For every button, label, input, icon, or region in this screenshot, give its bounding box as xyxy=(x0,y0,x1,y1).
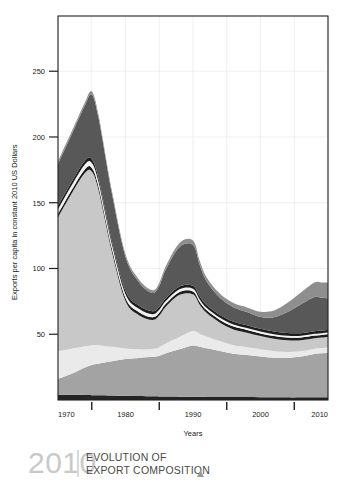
x-tick-label: 1980 xyxy=(117,410,134,419)
x-axis-title: Years xyxy=(184,429,203,438)
caption-line-1: EVOLUTION OF xyxy=(86,451,167,463)
y-tick-label: 250 xyxy=(32,67,45,76)
x-tick-label: 2000 xyxy=(252,410,269,419)
y-tick-label: 100 xyxy=(32,264,45,273)
y-tick-label: 200 xyxy=(32,133,45,142)
x-tick-label: 2010 xyxy=(311,410,328,419)
y-axis-title: Exports per capita in constant 2010 US D… xyxy=(10,144,19,300)
caption-line-2: EXPORT COMPOSITION xyxy=(86,464,210,476)
y-tick-label: 50 xyxy=(37,330,45,339)
plot-area xyxy=(58,16,328,400)
export-composition-figure: 50100150200250 Exports per capita in con… xyxy=(0,0,339,482)
x-tick-label: 1990 xyxy=(185,410,202,419)
x-tick-label: 1970 xyxy=(58,410,75,419)
y-tick-label: 150 xyxy=(32,199,45,208)
